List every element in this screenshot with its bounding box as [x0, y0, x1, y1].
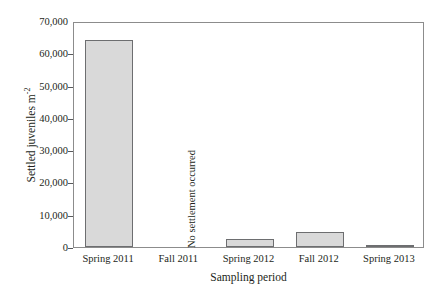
y-axis-tick-mark: [68, 248, 73, 249]
y-axis-tick-mark: [68, 151, 73, 152]
bar: [366, 245, 414, 247]
bar-series: [74, 23, 423, 247]
y-axis-tick-label: 40,000: [22, 114, 68, 124]
y-axis-tick-label: 0: [22, 243, 68, 253]
bar: [226, 239, 274, 247]
y-axis-tick-mark: [68, 119, 73, 120]
x-axis-title: Sampling period: [73, 270, 424, 284]
plot-area: [73, 22, 424, 248]
bar-chart-figure: Settled juveniles m-2 010,00020,00030,00…: [0, 0, 440, 295]
bar: [85, 40, 133, 247]
y-axis-tick-label: 70,000: [22, 17, 68, 27]
y-axis-tick-label: 30,000: [22, 146, 68, 156]
x-axis-tick-labels: Spring 2011Fall 2011Spring 2012Fall 2012…: [73, 252, 424, 268]
y-axis-tick-mark: [68, 87, 73, 88]
y-axis-tick-label: 10,000: [22, 211, 68, 221]
y-axis-tick-mark: [68, 183, 73, 184]
y-axis-tick-mark: [68, 54, 73, 55]
y-axis-tick-label: 20,000: [22, 178, 68, 188]
y-axis-tick-label: 50,000: [22, 82, 68, 92]
no-settlement-annotation: No settlement occurred: [185, 128, 199, 248]
y-axis-tick-labels: 010,00020,00030,00040,00050,00060,00070,…: [16, 0, 68, 295]
y-axis-tick-label: 60,000: [22, 49, 68, 59]
x-axis-tick-label: Spring 2013: [344, 252, 434, 266]
y-axis-tick-mark: [68, 216, 73, 217]
bar: [296, 232, 344, 247]
